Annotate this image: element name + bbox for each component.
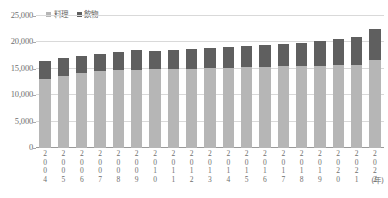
x-axis-tick-label: 2012: [183, 150, 201, 184]
bar-2017[interactable]: [278, 44, 289, 148]
bar-2016[interactable]: [259, 45, 270, 148]
bar-2006[interactable]: [76, 56, 87, 148]
y-axis-tick-label: 5,000: [0, 117, 33, 126]
x-axis-tick-label: 2013: [201, 150, 219, 184]
bar-segment-ryori: [39, 79, 50, 148]
bar-segment-nomimono: [76, 56, 87, 73]
bar-segment-nomimono: [204, 48, 215, 68]
bar-segment-nomimono: [241, 46, 252, 67]
bar-segment-ryori: [333, 65, 344, 148]
bar-2021[interactable]: [351, 37, 362, 148]
bar-segment-ryori: [149, 69, 160, 148]
bar-2008[interactable]: [113, 52, 124, 148]
bar-segment-nomimono: [333, 39, 344, 65]
x-label-digit: 9: [311, 176, 329, 185]
y-axis-tick-label: 25,000: [0, 11, 33, 20]
x-label-digit: 6: [73, 176, 91, 185]
bar-segment-ryori: [351, 65, 362, 148]
bar-2005[interactable]: [58, 58, 69, 148]
x-axis-tick-label: 2005: [54, 150, 72, 184]
bar-2020[interactable]: [333, 39, 344, 148]
bar-2010[interactable]: [149, 51, 160, 148]
bar-segment-ryori: [204, 68, 215, 148]
y-axis-tick-label: 0: [0, 143, 33, 152]
bar-2014[interactable]: [223, 47, 234, 148]
bar-segment-ryori: [223, 68, 234, 148]
bar-segment-nomimono: [39, 61, 50, 78]
bar-segment-ryori: [113, 70, 124, 148]
bar-segment-nomimono: [186, 49, 197, 69]
bar-segment-ryori: [76, 73, 87, 149]
x-label-digit: 8: [109, 176, 127, 185]
bar-2012[interactable]: [186, 49, 197, 148]
stacked-bar-chart: 05,00010,00015,00020,00025,000 料理飲物 2022…: [0, 0, 388, 198]
x-label-digit: 8: [292, 176, 310, 185]
bar-segment-nomimono: [259, 45, 270, 67]
x-axis-tick-label: 2008: [109, 150, 127, 184]
plot-area: [36, 16, 384, 148]
x-label-digit: 5: [54, 176, 72, 185]
x-axis-tick-label: 2020: [329, 150, 347, 184]
bar-2004[interactable]: [39, 61, 50, 148]
bar-segment-ryori: [278, 66, 289, 148]
bar-2013[interactable]: [204, 48, 215, 148]
x-axis-unit-label: (年): [371, 177, 384, 186]
bar-segment-nomimono: [314, 41, 325, 65]
bar-segment-ryori: [296, 66, 307, 148]
bar-segment-ryori: [168, 69, 179, 148]
x-label-digit: 4: [219, 176, 237, 185]
bar-segment-ryori: [94, 71, 105, 148]
bar-segment-ryori: [186, 69, 197, 148]
x-axis-tick-label: 2015: [237, 150, 255, 184]
x-label-digit: 1: [164, 176, 182, 185]
bar-segment-ryori: [369, 60, 380, 148]
bar-segment-ryori: [58, 76, 69, 148]
x-label-digit: 0: [329, 176, 347, 185]
bar-segment-nomimono: [168, 50, 179, 69]
bar-2019[interactable]: [314, 41, 325, 148]
x-label-digit: 1: [347, 176, 365, 185]
x-label-digit: 2: [183, 176, 201, 185]
bar-segment-nomimono: [113, 52, 124, 70]
bar-segment-nomimono: [149, 51, 160, 69]
x-axis-tick-label: 2009: [128, 150, 146, 184]
y-axis-tick-label: 20,000: [0, 37, 33, 46]
bar-2022[interactable]: [369, 29, 380, 148]
x-axis-tick-label: 2010: [146, 150, 164, 184]
y-axis-tick-label: 15,000: [0, 64, 33, 73]
bar-segment-ryori: [241, 67, 252, 148]
x-axis-tick-label: 2004: [36, 150, 54, 184]
x-axis-tick-label: 2007: [91, 150, 109, 184]
bar-2007[interactable]: [94, 54, 105, 148]
bar-2018[interactable]: [296, 43, 307, 148]
x-label-digit: 4: [36, 176, 54, 185]
y-axis-tick-label: 10,000: [0, 90, 33, 99]
x-label-digit: 0: [146, 176, 164, 185]
bars-container: [36, 16, 384, 148]
x-label-digit: 9: [128, 176, 146, 185]
bar-segment-ryori: [131, 70, 142, 148]
x-label-digit: 7: [274, 176, 292, 185]
bar-segment-nomimono: [58, 58, 69, 75]
x-label-digit: 3: [201, 176, 219, 185]
bar-2011[interactable]: [168, 50, 179, 148]
bar-segment-nomimono: [351, 37, 362, 64]
x-axis-tick-label: 2011: [164, 150, 182, 184]
bar-2009[interactable]: [131, 50, 142, 148]
x-label-digit: 6: [256, 176, 274, 185]
bar-segment-nomimono: [94, 54, 105, 71]
bar-segment-nomimono: [278, 44, 289, 66]
x-axis-tick-label: 2018: [292, 150, 310, 184]
bar-segment-nomimono: [223, 47, 234, 68]
x-axis-labels: 2022202120202019201820172016201520142013…: [36, 150, 384, 198]
bar-segment-nomimono: [296, 43, 307, 66]
bar-segment-ryori: [314, 66, 325, 148]
x-label-digit: 7: [91, 176, 109, 185]
x-axis-tick-label: 2014: [219, 150, 237, 184]
x-axis-tick-label: 2017: [274, 150, 292, 184]
x-axis-tick-label: 2021: [347, 150, 365, 184]
bar-2015[interactable]: [241, 46, 252, 148]
bar-segment-nomimono: [131, 50, 142, 70]
x-label-digit: 5: [237, 176, 255, 185]
bar-segment-nomimono: [369, 29, 380, 61]
